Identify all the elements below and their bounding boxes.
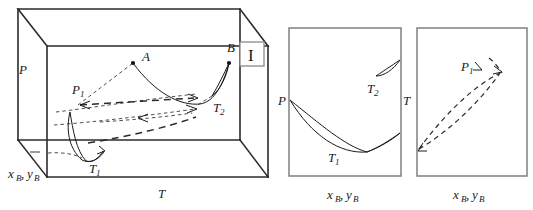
right-panel-axis-label-y-sub: B: [479, 194, 485, 204]
figure-svg: P T x B , y B: [0, 0, 533, 210]
middle-panel-axis-label-P: P: [277, 93, 286, 108]
annotation-T1: T 1: [89, 161, 101, 178]
middle-panel: P T 2 T 1 x B , y: [277, 28, 401, 204]
dashed-tieline-upper: [54, 109, 195, 125]
cube-panel: P T x B , y B: [7, 9, 268, 201]
annotation-P1-sub: 1: [80, 89, 85, 99]
right-panel: T P 1 x B , y B: [403, 28, 527, 204]
point-A-marker: [131, 61, 135, 65]
middle-panel-axis-label-composition: x B , y B: [326, 187, 359, 204]
cube-axis-label-y: y: [25, 166, 33, 181]
right-panel-label-P1-sub: 1: [469, 66, 474, 76]
panel-tag-label: I: [248, 46, 254, 65]
arrow-tieline-upper: [186, 105, 197, 113]
annotation-T1-sub: 1: [96, 168, 101, 178]
middle-panel-frame: [289, 28, 401, 176]
cube-axis-label-x: x: [7, 166, 14, 181]
middle-panel-axis-label-y-sub: B: [353, 194, 359, 204]
middle-panel-label-T1-sub: 1: [335, 157, 340, 167]
right-panel-axis-label-composition: x B , y B: [452, 187, 485, 204]
cube-bottom-right-diagonal: [240, 140, 268, 177]
middle-panel-axis-label-comma: ,: [340, 187, 343, 202]
right-panel-axis-label-x: x: [452, 187, 459, 202]
right-panel-axis-label-T: T: [403, 93, 411, 108]
annotation-T2: T 2: [213, 100, 225, 117]
curve-A-to-B-upper: [133, 63, 229, 104]
dashed-T2-tail: [196, 96, 212, 106]
point-B-label: B: [227, 40, 235, 55]
annotation-T2-sub: 2: [220, 107, 225, 117]
right-panel-axis-label-comma: ,: [466, 187, 469, 202]
loop-T2-left-branch: [212, 63, 229, 96]
annotation-P1-label: P: [71, 82, 80, 97]
point-A-label: A: [141, 49, 150, 64]
middle-panel-axis-label-y: y: [344, 187, 352, 202]
right-panel-axis-label-y: y: [470, 187, 478, 202]
dashed-tieline-lower: [88, 117, 196, 143]
panel-tag-I: I: [240, 42, 264, 66]
dashed-isobar-P1: [80, 98, 194, 105]
cube-axis-label-comma: ,: [21, 166, 24, 181]
cube-axis-label-T: T: [158, 186, 166, 201]
middle-panel-axis-label-x: x: [326, 187, 333, 202]
middle-panel-label-T2-sub: 2: [374, 88, 379, 98]
cube-wireframe: [18, 9, 268, 177]
point-B-marker: [227, 61, 231, 65]
right-panel-label-P1-main: P: [460, 59, 469, 74]
right-panel-frame: [417, 28, 527, 176]
cube-axis-label-P: P: [18, 62, 27, 77]
cube-axis-label-y-sub: B: [34, 173, 40, 183]
loop-T1-right-branch: [70, 112, 86, 161]
cube-axis-label-composition: x B , y B: [7, 166, 40, 183]
figure-page: P T x B , y B: [0, 0, 533, 210]
dashed-edge-P1-to-A: [78, 63, 133, 105]
annotation-P1: P 1: [71, 82, 85, 99]
